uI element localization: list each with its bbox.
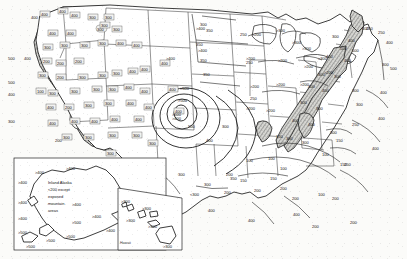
svg-text:300: 300 (49, 91, 57, 96)
svg-text:400: 400 (141, 89, 149, 94)
svg-text:200: 200 (55, 138, 62, 143)
svg-text:300: 300 (99, 73, 107, 78)
svg-text:400: 400 (378, 116, 385, 121)
svg-text:100: 100 (246, 158, 253, 163)
svg-text:350: 350 (200, 58, 207, 63)
svg-text:300: 300 (330, 130, 337, 135)
svg-text:400: 400 (208, 208, 215, 213)
svg-text:500: 500 (352, 48, 359, 53)
svg-text:250: 250 (250, 96, 257, 101)
svg-text:300: 300 (61, 43, 69, 48)
svg-text:300: 300 (105, 15, 113, 20)
label-group-northern-plains: 300 350 350 350 350 250 250 250 >400 >40… (166, 22, 257, 121)
svg-text:150: 150 (276, 134, 283, 139)
svg-text:>400: >400 (18, 180, 28, 185)
svg-text:>400: >400 (18, 216, 28, 221)
svg-text:400: 400 (161, 61, 169, 66)
svg-text:400: 400 (135, 117, 143, 122)
svg-text:400: 400 (24, 56, 31, 61)
svg-text:350: 350 (196, 42, 203, 47)
svg-text:300: 300 (101, 23, 109, 28)
svg-text:>300: >300 (142, 206, 152, 211)
svg-text:300: 300 (113, 71, 121, 76)
svg-text:>200: >200 (246, 106, 256, 111)
svg-text:100: 100 (322, 152, 329, 157)
svg-text:400: 400 (47, 105, 55, 110)
svg-text:250: 250 (378, 30, 385, 35)
label-group-central-maximum: >500 500 400 300 (172, 112, 229, 143)
svg-text:500: 500 (8, 56, 15, 61)
svg-text:500: 500 (390, 66, 397, 71)
svg-text:300: 300 (286, 136, 293, 141)
svg-text:<200 except: <200 except (48, 187, 71, 192)
svg-text:>400: >400 (166, 56, 176, 61)
svg-text:100: 100 (280, 166, 287, 171)
svg-text:200: 200 (224, 190, 231, 195)
svg-text:100: 100 (37, 89, 45, 94)
svg-text:300: 300 (39, 73, 47, 78)
svg-text:100: 100 (268, 156, 275, 161)
svg-text:300: 300 (149, 141, 157, 146)
svg-text:500: 500 (340, 46, 347, 51)
svg-text:300: 300 (204, 182, 211, 187)
svg-text:400: 400 (71, 119, 79, 124)
svg-text:400: 400 (386, 40, 393, 45)
svg-text:350: 350 (230, 176, 237, 181)
svg-text:500: 500 (8, 80, 15, 85)
svg-text:200: 200 (312, 224, 319, 229)
svg-text:200: 200 (65, 105, 73, 110)
svg-text:>500: >500 (72, 220, 82, 225)
svg-text:>500: >500 (26, 244, 36, 249)
svg-text:>400: >400 (92, 214, 102, 219)
svg-text:300: 300 (113, 27, 121, 32)
label-group-alaska: >400 >400 >400 >400 >400 >500 >500 >500 … (18, 166, 116, 249)
svg-text:200: 200 (350, 220, 357, 225)
svg-text:>400: >400 (72, 202, 82, 207)
svg-text:300: 300 (79, 75, 87, 80)
svg-text:400: 400 (308, 122, 315, 127)
svg-text:400: 400 (293, 212, 300, 217)
svg-text:>500: >500 (180, 86, 190, 91)
svg-text:Inland Alaska: Inland Alaska (48, 180, 73, 185)
svg-text:400: 400 (292, 118, 299, 123)
svg-text:>400: >400 (66, 166, 76, 171)
svg-text:>400: >400 (18, 200, 28, 205)
svg-text:200: 200 (43, 59, 51, 64)
svg-text:300: 300 (93, 87, 101, 92)
svg-text:400: 400 (129, 69, 137, 74)
svg-text:400: 400 (169, 87, 177, 92)
svg-text:200: 200 (332, 196, 339, 201)
svg-text:350: 350 (203, 72, 210, 77)
svg-text:250: 250 (366, 26, 373, 31)
svg-text:Hawaii: Hawaii (120, 241, 131, 245)
svg-text:>500: >500 (46, 238, 56, 243)
svg-text:300: 300 (356, 102, 363, 107)
svg-text:>300: >300 (126, 218, 136, 223)
label-layer: 400 400 500 500 400 300 200 400 400 400 … (0, 0, 407, 259)
svg-text:300: 300 (81, 43, 89, 48)
svg-text:150: 150 (240, 178, 247, 183)
svg-text:>300: >300 (276, 28, 286, 33)
svg-text:>200: >200 (276, 82, 286, 87)
svg-text:300: 300 (318, 72, 325, 77)
svg-text:400: 400 (380, 90, 387, 95)
label-group-great-lakes: >200 >300 >300 >300 >200 >200 >200 >200 … (246, 28, 334, 113)
svg-text:200: 200 (292, 196, 299, 201)
svg-text:mountain: mountain (48, 201, 64, 206)
svg-text:300: 300 (334, 74, 341, 79)
label-group-west-interior: 400 400 400 300 300 400 400 300 300 300 … (36, 8, 184, 156)
svg-text:400: 400 (322, 88, 329, 93)
svg-text:400: 400 (41, 12, 49, 17)
svg-text:400: 400 (49, 31, 57, 36)
svg-text:400: 400 (248, 218, 255, 223)
svg-text:>200: >200 (252, 32, 262, 37)
svg-text:300: 300 (71, 89, 79, 94)
svg-text:300: 300 (302, 140, 309, 145)
svg-text:400: 400 (308, 84, 315, 89)
svg-text:>300: >300 (163, 244, 173, 249)
svg-text:>300: >300 (292, 40, 302, 45)
svg-text:500: 500 (188, 124, 195, 129)
svg-text:>400: >400 (198, 48, 208, 53)
svg-text:>200: >200 (250, 84, 260, 89)
svg-text:300: 300 (99, 41, 107, 46)
